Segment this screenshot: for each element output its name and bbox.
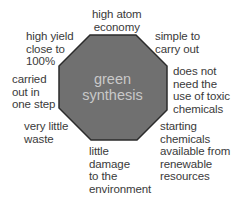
center-label: green synthesis [59,72,166,103]
label-carried-out-one-step: carried out in one step [12,73,55,111]
label-no-toxic-chemicals: does not need the use of toxic chemicals [173,65,230,115]
label-simple-to-carry-out: simple to carry out [155,30,200,55]
label-renewable-resources: starting chemicals available from renewa… [160,120,230,183]
label-very-little-waste: very little waste [24,120,68,145]
label-little-damage-environment: little damage to the environment [89,145,151,195]
label-high-atom-economy: high atom economy [92,8,142,33]
label-high-yield: high yield close to 100% [26,30,74,68]
